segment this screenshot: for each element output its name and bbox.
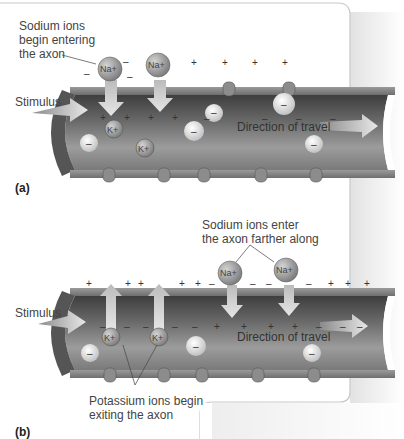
- svg-text:+: +: [345, 278, 351, 289]
- svg-text:–: –: [250, 278, 256, 289]
- k-label: K+: [107, 123, 118, 137]
- svg-text:+: +: [195, 278, 201, 289]
- svg-text:–: –: [306, 278, 312, 289]
- svg-text:+: +: [364, 278, 370, 289]
- svg-text:+: +: [214, 321, 220, 332]
- svg-text:+: +: [179, 278, 185, 289]
- svg-text:+: +: [282, 57, 288, 68]
- svg-text:+: +: [252, 57, 258, 68]
- axon-a: [51, 87, 395, 178]
- k-label: K+: [152, 331, 163, 345]
- callout-line-1: Sodium ions enter: [202, 218, 319, 232]
- svg-text:+: +: [222, 57, 228, 68]
- svg-text:–: –: [211, 107, 217, 118]
- svg-text:–: –: [127, 71, 133, 82]
- svg-text:–: –: [330, 113, 336, 124]
- stimulus-label-a: Stimulus: [15, 95, 61, 109]
- svg-text:–: –: [123, 56, 129, 67]
- na-label: Na+: [148, 58, 165, 72]
- callout-line-3: the axon: [19, 47, 95, 61]
- stimulus-label-b: Stimulus: [15, 306, 61, 320]
- callout-potassium-b: Potassium ions begin exiting the axon: [89, 394, 203, 422]
- svg-text:–: –: [124, 321, 130, 332]
- svg-text:+: +: [172, 112, 178, 123]
- svg-text:–: –: [87, 348, 93, 359]
- svg-text:–: –: [143, 321, 149, 332]
- direction-label-b: Direction of travel: [237, 330, 330, 344]
- svg-text:–: –: [340, 321, 346, 332]
- callout-sodium-b: Sodium ions enter the axon farther along: [202, 218, 319, 246]
- panel-label-b: (b): [15, 425, 30, 439]
- svg-text:+: +: [100, 112, 106, 123]
- callout-sodium-a: Sodium ions begin entering the axon: [19, 19, 95, 61]
- svg-text:–: –: [357, 321, 363, 332]
- svg-text:–: –: [204, 113, 210, 124]
- svg-text:+: +: [138, 278, 144, 289]
- na-label: Na+: [220, 266, 237, 280]
- svg-text:–: –: [86, 138, 92, 149]
- direction-label-a: Direction of travel: [237, 120, 330, 134]
- svg-text:–: –: [84, 68, 90, 79]
- svg-text:+: +: [148, 112, 154, 123]
- svg-text:–: –: [209, 278, 215, 289]
- callout-line-2: the axon farther along: [202, 232, 319, 246]
- svg-text:–: –: [191, 126, 197, 137]
- na-label: Na+: [100, 62, 117, 76]
- svg-text:–: –: [309, 348, 315, 359]
- callout-line-2: begin entering: [19, 33, 95, 47]
- svg-text:+: +: [86, 278, 92, 289]
- callout-line-1: Sodium ions: [19, 19, 95, 33]
- svg-text:–: –: [192, 321, 198, 332]
- callout-line-2: exiting the axon: [89, 408, 203, 422]
- axon-b: [51, 288, 395, 378]
- svg-text:+: +: [125, 278, 131, 289]
- svg-text:–: –: [172, 321, 178, 332]
- k-label: K+: [104, 331, 115, 345]
- svg-text:–: –: [281, 99, 287, 110]
- callout-line-1: Potassium ions begin: [89, 394, 203, 408]
- svg-text:–: –: [193, 341, 199, 352]
- svg-text:+: +: [328, 278, 334, 289]
- k-label: K+: [138, 142, 149, 156]
- na-label: Na+: [276, 263, 293, 277]
- svg-text:+: +: [191, 57, 197, 68]
- svg-text:+: +: [124, 112, 130, 123]
- svg-text:–: –: [311, 139, 317, 150]
- svg-text:–: –: [266, 278, 272, 289]
- panel-label-a: (a): [15, 181, 30, 195]
